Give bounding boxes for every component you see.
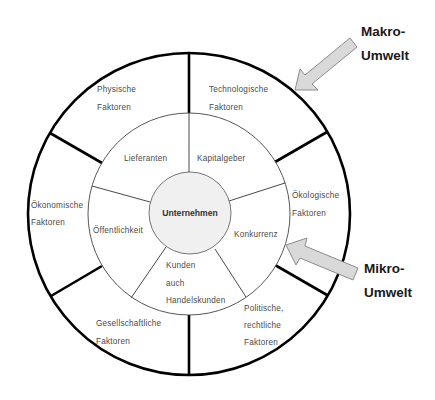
makro-arrow-icon (295, 38, 357, 90)
macro-label-gesellschaftliche-line1: Gesellschaftliche (96, 319, 162, 328)
mikro-label-line2: Umwelt (364, 285, 413, 300)
macro-label-physische-line2: Faktoren (97, 103, 131, 112)
macro-label-oekologische-line1: Ökologische (292, 190, 340, 200)
makro-label-line1: Makro- (361, 24, 405, 39)
macro-label-oekonomische-line1: Ökonomische (31, 200, 84, 210)
macro-label-oekologische-line2: Faktoren (292, 209, 326, 218)
macro-label-gesellschaftliche-line2: Faktoren (96, 337, 130, 346)
makro-label-line2: Umwelt (361, 48, 410, 63)
macro-label-politische: Politische, rechtliche Faktoren (244, 304, 284, 347)
umwelt-diagram: Unternehmen Kapitalgeber Konkurrenz Kund… (0, 0, 435, 400)
micro-label-kapitalgeber: Kapitalgeber (197, 154, 245, 163)
micro-label-kunden-line1: Kunden (166, 261, 196, 270)
micro-label-kunden-line2: auch (166, 279, 185, 288)
micro-label-lieferanten: Lieferanten (124, 154, 167, 163)
macro-label-politische-line1: Politische, (244, 304, 284, 313)
macro-label-politische-line2: rechtliche (244, 321, 281, 330)
macro-label-oekonomische-line2: Faktoren (31, 218, 65, 227)
micro-label-konkurrenz: Konkurrenz (234, 230, 278, 239)
macro-label-technologische-line1: Technologische (209, 85, 268, 94)
mikro-label-line1: Mikro- (364, 261, 405, 276)
macro-label-physische-line1: Physische (97, 85, 136, 94)
macro-label-politische-line3: Faktoren (244, 338, 278, 347)
center-label: Unternehmen (162, 208, 217, 218)
micro-label-oeffentlichkeit: Öffentlichkeit (93, 225, 144, 235)
macro-label-technologische-line2: Faktoren (209, 103, 243, 112)
micro-label-kunden-line3: Handelskunden (166, 296, 226, 305)
